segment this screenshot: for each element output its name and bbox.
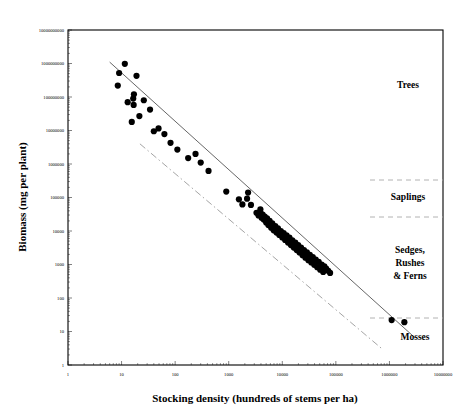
y-tick-label: 1000000000 bbox=[41, 61, 65, 66]
x-tick-label: 1000000 bbox=[381, 372, 398, 377]
data-point bbox=[327, 270, 333, 276]
region-label: Mosses bbox=[400, 332, 429, 342]
y-tick-label: 10000000000 bbox=[39, 28, 65, 33]
data-point bbox=[115, 82, 121, 88]
y-tick-label: 100 bbox=[57, 296, 65, 301]
region-label: Trees bbox=[397, 80, 419, 90]
y-axis-title: Biomass (mg per plant) bbox=[16, 142, 29, 252]
data-point bbox=[167, 140, 173, 146]
x-tick-label: 100000 bbox=[329, 372, 343, 377]
y-tick-label: 10000 bbox=[53, 229, 65, 234]
y-tick-label: 10000000 bbox=[46, 128, 65, 133]
data-point bbox=[205, 168, 211, 174]
data-point bbox=[116, 70, 122, 76]
x-tick-label: 100 bbox=[172, 372, 180, 377]
chart-figure: 10000000000 1000000000 100000000 1000000… bbox=[0, 0, 471, 420]
data-point bbox=[174, 146, 180, 152]
x-tick-label: 10000000 bbox=[434, 372, 453, 377]
region-label: & Ferns bbox=[393, 271, 427, 281]
y-tick-label: 10 bbox=[59, 329, 64, 334]
data-point bbox=[131, 91, 137, 97]
region-label: Sedges, bbox=[395, 245, 425, 255]
scatter-plot-svg: 10000000000 1000000000 100000000 1000000… bbox=[0, 0, 471, 420]
data-point bbox=[389, 317, 395, 323]
region-label: Rushes bbox=[395, 258, 424, 268]
data-point bbox=[141, 97, 147, 103]
x-tick-label: 1000 bbox=[224, 372, 234, 377]
y-tick-label: 1000 bbox=[55, 262, 65, 267]
data-point bbox=[248, 202, 254, 208]
data-point bbox=[131, 102, 137, 108]
data-point bbox=[136, 113, 142, 119]
data-point bbox=[161, 131, 167, 137]
x-axis-title: Stocking density (hundreds of stems per … bbox=[152, 392, 358, 405]
data-point bbox=[185, 155, 191, 161]
region-label: Saplings bbox=[391, 192, 426, 202]
data-point bbox=[236, 196, 242, 202]
data-point bbox=[245, 190, 251, 196]
data-point bbox=[125, 99, 131, 105]
data-point bbox=[239, 201, 245, 207]
data-point bbox=[129, 119, 135, 125]
data-point bbox=[401, 319, 407, 325]
data-point bbox=[122, 61, 128, 67]
data-point bbox=[198, 160, 204, 166]
y-tick-label: 100000 bbox=[50, 195, 64, 200]
data-point bbox=[155, 125, 161, 131]
data-point bbox=[223, 189, 229, 195]
x-tick-label: 10000 bbox=[277, 372, 289, 377]
y-tick-label: 1000000 bbox=[48, 162, 65, 167]
data-point bbox=[244, 196, 250, 202]
data-point bbox=[192, 151, 198, 157]
y-tick-label: 100000000 bbox=[43, 95, 64, 100]
data-point bbox=[147, 107, 153, 113]
x-tick-label: 10 bbox=[119, 372, 124, 377]
figure-background bbox=[0, 0, 471, 420]
data-point bbox=[133, 73, 139, 79]
